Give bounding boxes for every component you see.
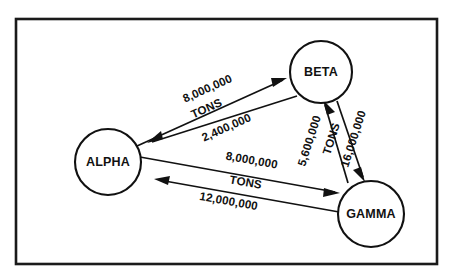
node-beta[interactable]: BETA — [290, 41, 352, 103]
node-alpha[interactable]: ALPHA — [75, 129, 141, 195]
arrowhead-into-alpha-from-gamma — [154, 176, 170, 185]
label-gamma-to-beta-value: 5,600,000 — [294, 114, 323, 168]
label-alpha-to-gamma-value: 8,000,000 — [225, 149, 279, 171]
node-gamma[interactable]: GAMMA — [338, 181, 404, 247]
arrowhead-into-beta — [271, 78, 287, 87]
edge-beta-to-alpha — [147, 96, 297, 143]
label-beta-to-alpha-value: 2,400,000 — [200, 110, 253, 143]
edge-beta-to-alpha-line — [152, 96, 297, 142]
node-beta-label: BETA — [304, 65, 338, 79]
node-alpha-label: ALPHA — [86, 155, 130, 169]
label-alpha-gamma-unit: TONS — [229, 172, 263, 190]
flow-diagram: ALPHA BETA GAMMA 8,000,000 TONS 2,400,00… — [0, 0, 452, 279]
arrowhead-into-gamma-from-beta — [353, 167, 365, 182]
node-gamma-label: GAMMA — [346, 207, 396, 221]
arrowhead-into-gamma-from-alpha — [323, 188, 340, 197]
flow-diagram-canvas: ALPHA BETA GAMMA 8,000,000 TONS 2,400,00… — [0, 0, 452, 279]
